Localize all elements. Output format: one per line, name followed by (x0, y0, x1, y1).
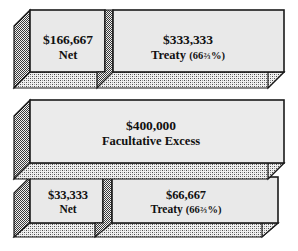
middle-layer-group (14, 100, 284, 179)
top-net-face (30, 10, 105, 72)
reinsurance-layer-diagram: $166,667 Net $333,333 Treaty (66⅔%) $400… (0, 0, 298, 251)
bottom-net-face (30, 177, 103, 223)
bottom-treaty-face (112, 177, 278, 223)
bottom-treaty-right-bevel (262, 223, 278, 237)
bottom-layer-base-shadow (14, 223, 278, 237)
top-layer-group (14, 10, 284, 88)
middle-base-shadow (14, 163, 284, 179)
top-layer-base-shadow (14, 72, 284, 88)
bottom-layer-group (14, 177, 278, 237)
top-treaty-right-bevel (268, 72, 284, 88)
diagram-canvas (0, 0, 298, 251)
top-treaty-face (113, 10, 284, 72)
facultative-excess-face (30, 100, 284, 163)
